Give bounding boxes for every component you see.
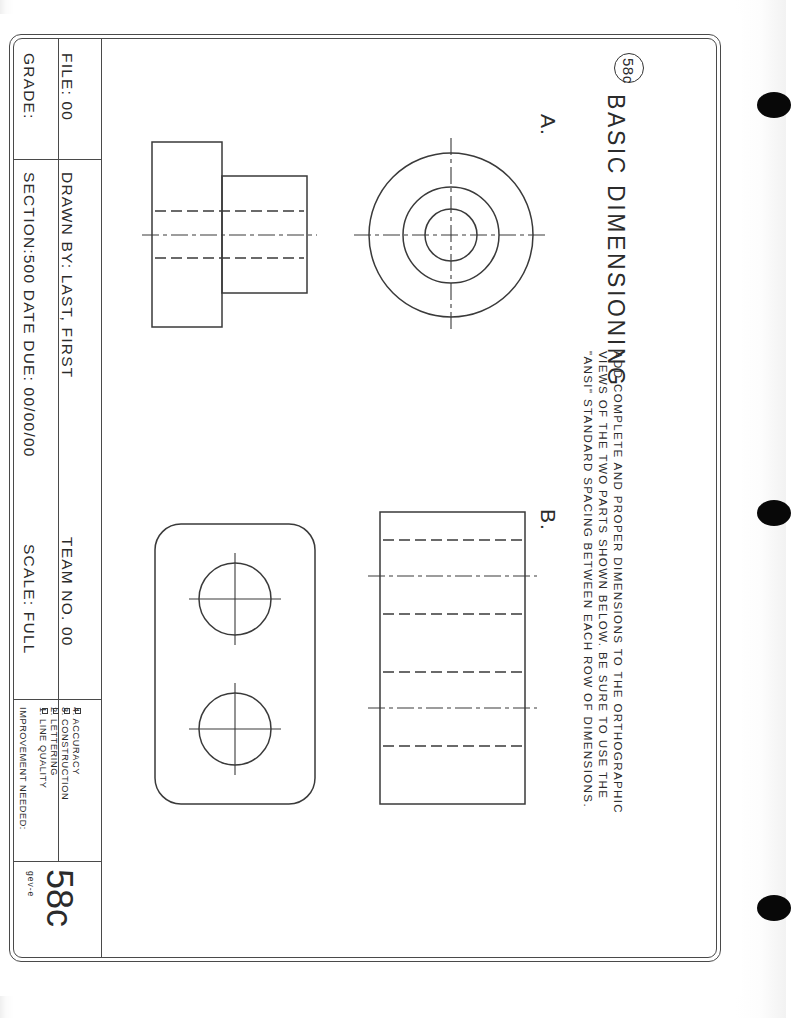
instructions-line-1: ADD COMPLETE AND PROPER DIMENSIONS TO TH… (612, 351, 625, 814)
improvement-heading: IMPROVEMENT NEEDED: (18, 707, 28, 830)
binder-hole-bottom (757, 895, 791, 921)
binder-hole-top (757, 92, 791, 118)
grade-field: GRADE: (20, 53, 38, 120)
improvement-item-3: 3. CONSTRUCTION (60, 707, 70, 800)
improvement-item-2: 2. LETTERING (49, 707, 59, 776)
improvement-checkbox-4[interactable] (75, 708, 81, 714)
title-block: FILE: 00 DRAWN BY: LAST, FIRST TEAM NO. … (14, 39, 102, 957)
part-b-label: B. (536, 509, 560, 531)
page-title: BASIC DIMENSIONING (602, 94, 629, 387)
title-block-divider-3 (14, 861, 102, 862)
lesson-badge: 58c (614, 53, 644, 83)
improvement-checkbox-2[interactable] (53, 708, 59, 714)
sheet-number: 58c (38, 869, 80, 927)
instructions-line-2: VIEWS OF THE TWO PARTS SHOWN BELOW. BE S… (597, 351, 610, 799)
improvement-item-1: 1. LINE QUALITY (38, 707, 48, 789)
instructions-line-3: "ANSI" STANDARD SPACING BETWEEN EACH ROW… (582, 351, 595, 808)
sheet-code: gev-e (26, 871, 36, 897)
lesson-badge-label: 58c (620, 58, 637, 84)
section-date-field: SECTION:500 DATE DUE: 00/00/00 (20, 172, 38, 458)
part-a-label: A. (536, 114, 560, 136)
team-no-field: TEAM NO. 00 (58, 537, 76, 647)
worksheet-content: 58c BASIC DIMENSIONING ADD COMPLETE AND … (102, 39, 717, 957)
improvement-checkbox-1[interactable] (42, 708, 48, 714)
improvement-item-4: 4. ACCURACY (71, 707, 81, 775)
file-field: FILE: 00 (58, 53, 76, 121)
improvement-checkbox-3[interactable] (64, 708, 70, 714)
drawn-by-field: DRAWN BY: LAST, FIRST (58, 172, 76, 378)
scale-field: SCALE: FULL (20, 544, 38, 655)
binder-hole-middle (757, 500, 791, 526)
